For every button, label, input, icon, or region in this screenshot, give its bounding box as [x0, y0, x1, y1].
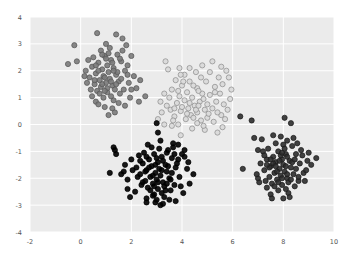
data-point [114, 32, 119, 37]
data-point [117, 91, 122, 96]
data-point [112, 110, 117, 115]
data-point [292, 157, 297, 162]
data-point [266, 146, 271, 151]
data-point [138, 158, 143, 163]
data-point [274, 169, 279, 174]
y-tick-label: 3 [18, 40, 22, 48]
data-point [174, 161, 179, 166]
data-point [153, 162, 158, 167]
data-point [187, 65, 192, 70]
data-point [290, 143, 295, 148]
data-point [140, 180, 145, 185]
data-point [288, 121, 293, 126]
data-point [210, 106, 215, 111]
data-point [65, 61, 70, 66]
data-point [148, 188, 153, 193]
data-point [91, 55, 96, 60]
data-point [178, 72, 183, 77]
data-point [159, 110, 164, 115]
data-point [195, 121, 200, 126]
data-point [258, 161, 263, 166]
data-point [278, 134, 283, 139]
data-point [276, 188, 281, 193]
data-point [158, 99, 163, 104]
data-point [125, 63, 130, 68]
data-point [179, 151, 184, 156]
data-point [133, 189, 138, 194]
data-point [173, 198, 178, 203]
data-point [165, 67, 170, 72]
data-point [176, 142, 181, 147]
data-point [122, 162, 127, 167]
data-point [100, 52, 105, 57]
data-point [129, 157, 134, 162]
data-point [207, 92, 212, 97]
data-point [212, 90, 217, 95]
data-point [158, 203, 163, 208]
data-point [193, 69, 198, 74]
y-axis: -4-3-2-101234 [16, 14, 22, 237]
data-point [173, 78, 178, 83]
data-point [220, 82, 225, 87]
data-point [127, 194, 132, 199]
data-point [264, 162, 269, 167]
data-point [138, 78, 143, 83]
data-point [158, 138, 163, 143]
data-point [116, 100, 121, 105]
data-point [292, 184, 297, 189]
x-tick-label: -2 [27, 238, 33, 246]
data-point [124, 43, 129, 48]
data-point [225, 107, 230, 112]
data-point [190, 95, 195, 100]
data-point [144, 154, 149, 159]
data-point [145, 142, 150, 147]
data-point [219, 64, 224, 69]
data-point [186, 160, 191, 165]
data-point [217, 91, 222, 96]
data-point [268, 157, 273, 162]
data-point [105, 63, 110, 68]
data-point [143, 94, 148, 99]
y-tick-label: 4 [18, 14, 22, 22]
data-point [126, 80, 131, 85]
data-point [271, 133, 276, 138]
data-point [240, 166, 245, 171]
data-point [263, 178, 268, 183]
data-point [279, 176, 284, 181]
data-point [155, 130, 160, 135]
data-point [72, 43, 77, 48]
data-point [121, 87, 126, 92]
data-point [96, 68, 101, 73]
data-point [202, 107, 207, 112]
x-tick-label: 6 [231, 238, 235, 246]
x-tick-label: 2 [129, 238, 133, 246]
data-point [97, 91, 102, 96]
data-point [287, 194, 292, 199]
data-point [107, 170, 112, 175]
data-point [88, 87, 93, 92]
data-point [119, 172, 124, 177]
data-point [196, 103, 201, 108]
data-point [106, 51, 111, 56]
scatter-chart: -20246810 -4-3-2-101234 [0, 0, 349, 258]
data-point [215, 130, 220, 135]
data-point [182, 98, 187, 103]
data-point [177, 65, 182, 70]
data-point [131, 74, 136, 79]
data-point [212, 84, 217, 89]
data-point [211, 119, 216, 124]
data-point [164, 181, 169, 186]
data-point [291, 172, 296, 177]
data-point [157, 146, 162, 151]
data-point [282, 115, 287, 120]
data-point [314, 155, 319, 160]
data-point [300, 153, 305, 158]
data-point [187, 79, 192, 84]
data-point [164, 169, 169, 174]
data-point [154, 197, 159, 202]
data-point [181, 79, 186, 84]
data-point [111, 68, 116, 73]
data-point [178, 184, 183, 189]
data-point [83, 68, 88, 73]
y-tick-label: -2 [16, 175, 22, 183]
